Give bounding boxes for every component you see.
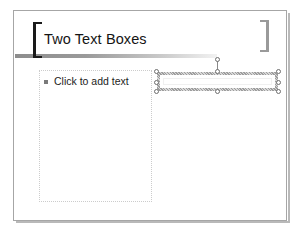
slide-title-text: Two Text Boxes [44,30,147,49]
content-placeholder[interactable]: Click to add text [39,70,152,202]
resize-handle-top-center[interactable] [215,69,220,74]
rotation-handle[interactable] [215,57,220,62]
content-placeholder-prompt-row: Click to add text [44,75,129,88]
resize-handle-bottom-left[interactable] [154,89,159,94]
resize-handle-middle-right[interactable] [276,80,281,85]
resize-handle-bottom-center[interactable] [215,89,220,94]
content-placeholder-prompt-text: Click to add text [54,75,129,88]
selected-text-box[interactable] [157,72,278,91]
resize-handle-bottom-right[interactable] [276,89,281,94]
resize-handle-middle-left[interactable] [154,80,159,85]
title-placeholder[interactable]: Two Text Boxes [36,24,266,60]
slide-shadow-right [288,13,290,223]
text-box-inner-area[interactable] [163,78,272,85]
resize-handle-top-left[interactable] [154,69,159,74]
square-bullet-icon [44,80,48,84]
slide-shadow-bottom [16,221,290,223]
resize-handle-top-right[interactable] [276,69,281,74]
